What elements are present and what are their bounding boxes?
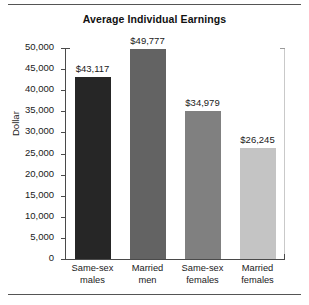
bar-value-label: $34,979 xyxy=(185,97,219,108)
chart-title: Average Individual Earnings xyxy=(0,13,309,25)
plot-area: 05,00010,00015,00020,00025,00030,00035,0… xyxy=(65,48,285,260)
y-tick-label: 40,000 xyxy=(25,83,54,94)
x-axis-line xyxy=(65,259,285,260)
x-category-label-line: males xyxy=(65,275,120,287)
x-category-label: Same-sexmales xyxy=(65,263,120,286)
y-tick-label: 10,000 xyxy=(25,210,54,221)
y-tick: 35,000 xyxy=(61,111,65,112)
x-axis-end-tick xyxy=(284,254,285,260)
y-tick-label: 0 xyxy=(49,252,54,263)
bar: $43,117 xyxy=(75,77,111,259)
bar-value-label: $26,245 xyxy=(240,134,274,145)
y-tick: 40,000 xyxy=(61,90,65,91)
y-tick: 20,000 xyxy=(61,175,65,176)
x-category-label: Marriedfemales xyxy=(230,263,285,286)
bar-value-label: $49,777 xyxy=(130,35,164,46)
x-category-label-line: Same-sex xyxy=(175,263,230,275)
y-tick: 15,000 xyxy=(61,196,65,197)
y-tick-label: 5,000 xyxy=(30,231,54,242)
y-tick-label: 30,000 xyxy=(25,125,54,136)
y-axis-label: Dollar xyxy=(10,111,21,136)
y-tick-label: 25,000 xyxy=(25,147,54,158)
y-tick: 10,000 xyxy=(61,217,65,218)
x-category-label-line: Married xyxy=(120,263,175,275)
x-category-label-line: men xyxy=(120,275,175,287)
y-tick-label: 50,000 xyxy=(25,41,54,52)
bar-value-label: $43,117 xyxy=(76,63,110,74)
y-axis-line xyxy=(65,48,66,260)
y-tick-label: 45,000 xyxy=(25,62,54,73)
y-tick: 45,000 xyxy=(61,69,65,70)
x-category-label-line: Married xyxy=(230,263,285,275)
x-category-label-line: females xyxy=(230,275,285,287)
page-rule-bottom xyxy=(8,294,301,295)
x-category-label: Marriedmen xyxy=(120,263,175,286)
bar-chart-figure: Average Individual Earnings Dollar 05,00… xyxy=(0,4,309,294)
y-tick: 25,000 xyxy=(61,154,65,155)
y-tick: 5,000 xyxy=(61,238,65,239)
y-tick: 50,000 xyxy=(61,48,65,49)
x-category-label: Same-sexfemales xyxy=(175,263,230,286)
y-tick: 0 xyxy=(61,259,65,260)
y-tick-label: 15,000 xyxy=(25,189,54,200)
bar: $49,777 xyxy=(130,49,166,259)
x-category-label-line: Same-sex xyxy=(65,263,120,275)
y-tick: 30,000 xyxy=(61,132,65,133)
plot-frame-right xyxy=(284,48,285,260)
plot-corner-top-left xyxy=(65,48,70,49)
y-tick-label: 35,000 xyxy=(25,104,54,115)
plot-corner-top-right xyxy=(280,48,285,49)
y-tick-label: 20,000 xyxy=(25,168,54,179)
bar: $26,245 xyxy=(240,148,276,259)
x-category-label-line: females xyxy=(175,275,230,287)
bar: $34,979 xyxy=(185,111,221,259)
